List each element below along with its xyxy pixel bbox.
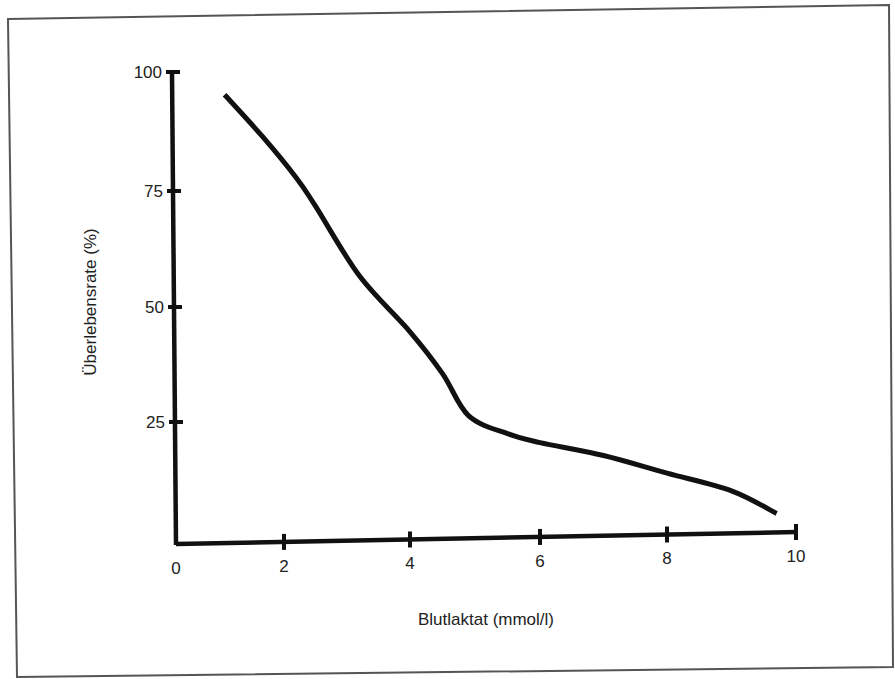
x-tick-label: 10 (787, 547, 806, 566)
x-axis-title: Blutlaktat (mmol/l) (418, 610, 554, 629)
y-tick-label: 25 (146, 413, 165, 432)
survival-curve-line (225, 95, 777, 514)
x-tick-label: 8 (662, 549, 671, 568)
y-tick-label: 50 (145, 298, 164, 317)
y-tick-label: 100 (134, 63, 162, 82)
axes: 255075100 0246810 (134, 63, 806, 578)
y-tick-label: 75 (144, 182, 163, 201)
chart-canvas: 255075100 0246810 Blutlaktat (mmol/l) Üb… (0, 0, 895, 679)
x-axis-line (176, 532, 797, 544)
x-tick-label: 0 (171, 559, 180, 578)
y-axis-title: Überlebensrate (%) (81, 228, 100, 375)
figure-frame (8, 5, 893, 677)
x-tick-label: 6 (535, 552, 544, 571)
x-tick-label: 2 (279, 557, 288, 576)
x-tick-label: 4 (405, 554, 414, 573)
